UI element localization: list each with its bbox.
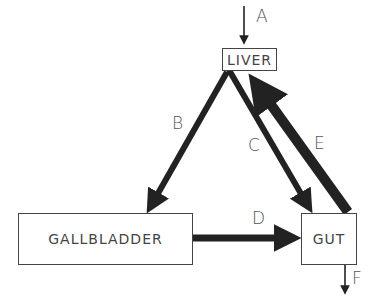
edge-label-e: E (314, 133, 325, 153)
node-gut-label: GUT (313, 231, 346, 247)
edge-label-d: D (252, 208, 265, 228)
node-liver: LIVER (222, 48, 277, 71)
edge-label-a: A (256, 6, 268, 26)
node-liver-label: LIVER (227, 52, 272, 68)
edge-label-f: F (352, 268, 362, 288)
arrow-b (152, 72, 227, 204)
edge-label-c: C (248, 135, 260, 155)
node-gallbladder-label: GALLBLADDER (48, 231, 162, 247)
edge-label-b: B (172, 113, 183, 133)
node-gut: GUT (301, 213, 357, 265)
node-gallbladder: GALLBLADDER (18, 213, 193, 265)
